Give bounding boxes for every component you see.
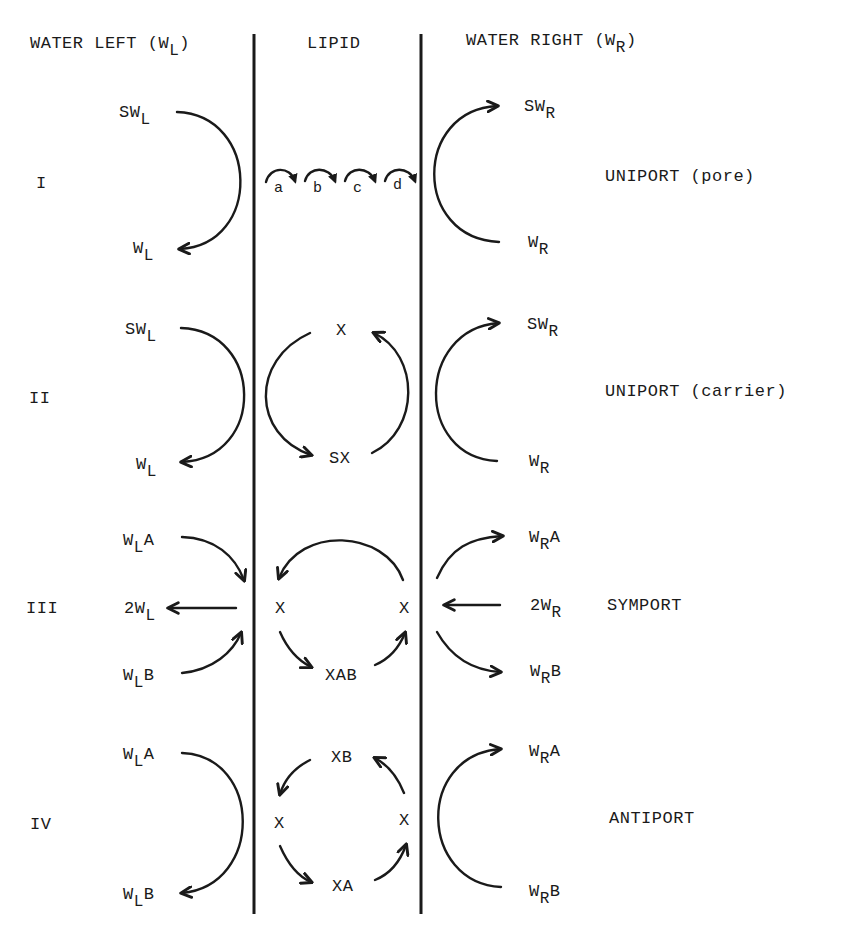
species-right-bottom: WRB (530, 663, 562, 680)
row-iii-arrows (169, 536, 502, 673)
arrow-x-to-xab-icon (280, 632, 311, 667)
arrow-right-bind-icon (436, 323, 498, 461)
arrow-xab-to-x-icon (375, 633, 405, 665)
carrier-a-complex: XA (332, 878, 353, 895)
carrier-bound: SX (329, 450, 350, 467)
carrier-free: X (336, 322, 347, 339)
row-iv-arrows (182, 749, 501, 893)
species-left-top: SWL (119, 104, 151, 121)
transport-type-label: UNIPORT (carrier) (605, 383, 787, 400)
species-right-mid: 2WR (530, 597, 562, 614)
row-numeral: I (36, 175, 47, 192)
arrow-wrb-out-icon (437, 632, 500, 672)
arrow-left-release-icon (177, 112, 240, 249)
carrier-b-complex: XB (331, 749, 352, 766)
arrow-x-to-xa-icon (280, 846, 311, 882)
arrow-right-exchange-icon (438, 749, 501, 887)
step-label-b: b (313, 180, 323, 197)
species-right-bottom: WR (529, 453, 550, 470)
species-right-top: SWR (524, 98, 556, 115)
arrow-xa-to-x-icon (375, 845, 406, 880)
arrow-right-bind-icon (434, 106, 499, 242)
species-right-bottom: WR (528, 234, 549, 251)
arrow-wlb-in-icon (182, 633, 241, 673)
carrier-left: X (274, 815, 285, 832)
arrow-left-release-icon (181, 328, 244, 462)
species-right-top: WRA (529, 743, 561, 760)
row-numeral: III (26, 600, 58, 617)
arrow-left-exchange-icon (182, 753, 243, 893)
carrier-right: X (399, 812, 410, 829)
row-numeral: II (29, 390, 50, 407)
step-label-d: d (393, 177, 403, 194)
step-label-c: c (353, 180, 363, 197)
arrow-x-to-xb-icon (375, 758, 404, 793)
arrow-wra-out-icon (437, 536, 502, 578)
header-water-right: WATER RIGHT (WR) (466, 32, 637, 49)
species-left-mid: 2WL (124, 600, 156, 617)
species-left-top: WLA (123, 746, 155, 763)
transport-type-label: UNIPORT (pore) (605, 168, 755, 185)
species-left-bottom: WL (136, 456, 157, 473)
species-right-bottom: WRB (529, 883, 561, 900)
carrier-left: X (275, 600, 286, 617)
row-numeral: IV (30, 816, 51, 833)
diagram-canvas (0, 0, 856, 939)
row-i-arrows (177, 106, 499, 249)
step-label-a: a (274, 180, 284, 197)
row-ii-arrows (181, 323, 498, 462)
transport-type-label: ANTIPORT (609, 810, 695, 827)
species-left-bottom: WL (133, 240, 154, 257)
arrow-x-to-sx-icon (266, 333, 311, 455)
species-right-top: SWR (527, 316, 559, 333)
species-left-top: SWL (125, 321, 157, 338)
species-left-bottom: WLB (123, 886, 155, 903)
header-lipid: LIPID (307, 35, 361, 52)
species-left-top: WLA (123, 532, 155, 549)
species-left-bottom: WLB (123, 667, 155, 684)
carrier-complex: XAB (325, 667, 357, 684)
arrow-sx-to-x-icon (372, 333, 408, 453)
arrow-xb-to-x-icon (280, 760, 310, 794)
carrier-right: X (399, 600, 410, 617)
transport-type-label: SYMPORT (607, 597, 682, 614)
header-water-left: WATER LEFT (WL) (30, 35, 190, 52)
arrow-wla-in-icon (182, 537, 244, 580)
arrow-x-return-icon (279, 540, 403, 580)
species-right-top: WRA (529, 529, 561, 546)
